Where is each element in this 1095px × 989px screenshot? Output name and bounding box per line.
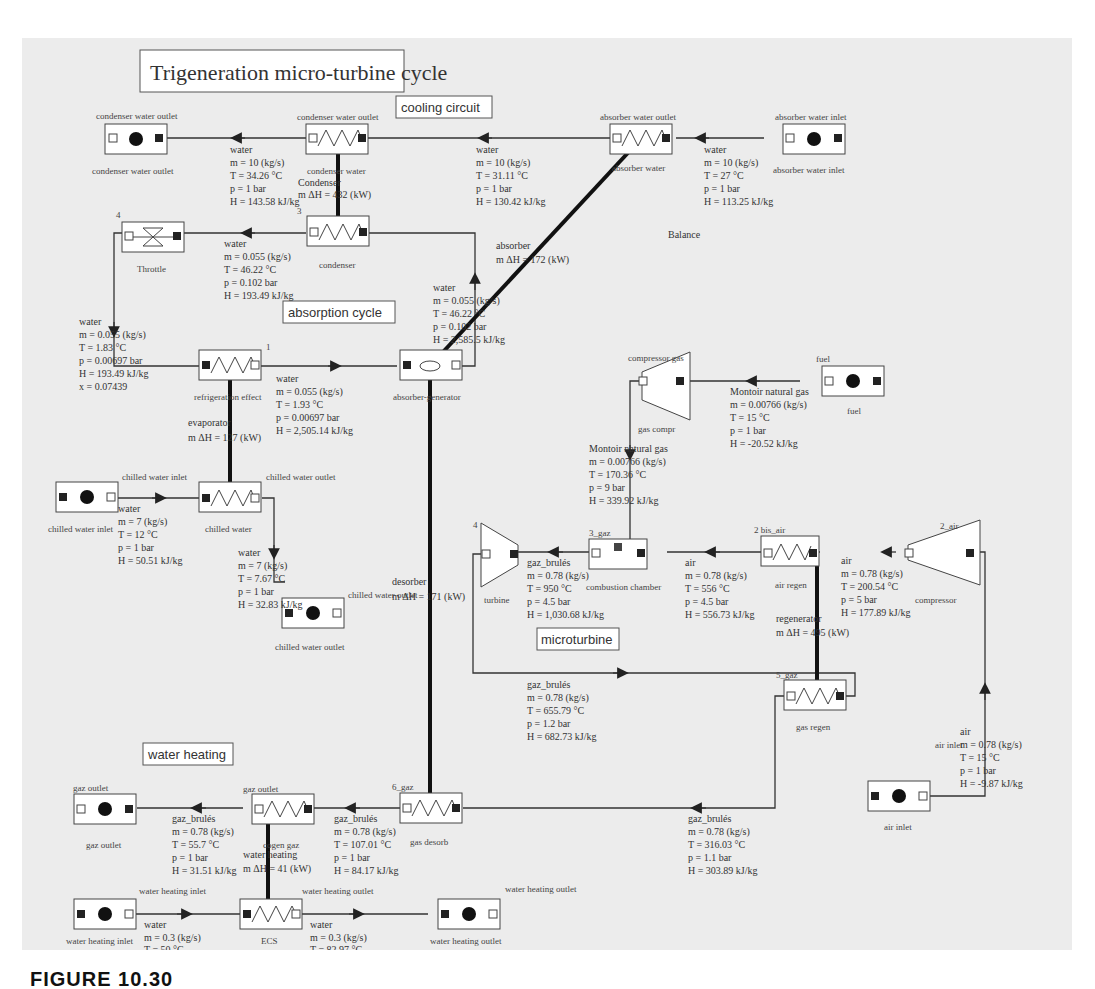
svg-text:m = 0.055 (kg/s): m = 0.055 (kg/s) xyxy=(276,386,343,398)
gas-outlet-sink[interactable] xyxy=(74,794,136,824)
svg-text:absorption cycle: absorption cycle xyxy=(288,305,382,320)
component-label: water heating outlet xyxy=(430,936,502,946)
svg-text:gaz_brulés: gaz_brulés xyxy=(334,813,377,824)
svg-text:x = 0.07439: x = 0.07439 xyxy=(79,381,127,392)
component-label: air inlet xyxy=(884,822,912,832)
svg-text:H = 113.25 kJ/kg: H = 113.25 kJ/kg xyxy=(704,196,773,207)
component-label: condenser water xyxy=(307,166,366,176)
svg-text:p = 0.102 bar: p = 0.102 bar xyxy=(433,321,487,332)
stream-gas-outlet: gaz_brulés m = 0.78 (kg/s) T = 55.7 °C p… xyxy=(172,813,237,876)
svg-text:p = 1 bar: p = 1 bar xyxy=(730,425,767,436)
air-inlet-source[interactable] xyxy=(868,781,930,811)
svg-text:Trigeneration micro-turbine cy: Trigeneration micro-turbine cycle xyxy=(150,60,447,85)
svg-text:water heating: water heating xyxy=(147,747,226,762)
svg-text:p = 1.2 bar: p = 1.2 bar xyxy=(527,718,571,729)
svg-text:gaz_brulés: gaz_brulés xyxy=(527,679,570,690)
svg-text:H = 556.73 kJ/kg: H = 556.73 kJ/kg xyxy=(685,609,755,620)
svg-text:T = 15 °C: T = 15 °C xyxy=(730,412,770,423)
svg-text:p = 1 bar: p = 1 bar xyxy=(476,183,513,194)
component-label: water heating outlet xyxy=(302,886,374,896)
svg-text:m ΔH = 432 (kW): m ΔH = 432 (kW) xyxy=(298,189,371,201)
node-number: 4 xyxy=(473,520,478,530)
svg-text:water: water xyxy=(310,919,333,930)
node-number: 4 xyxy=(116,210,121,220)
condenser-water-outlet-sink[interactable] xyxy=(105,124,167,154)
svg-text:T = 34.26 °C: T = 34.26 °C xyxy=(230,170,283,181)
svg-text:H = 303.89 kJ/kg: H = 303.89 kJ/kg xyxy=(688,865,758,876)
refrigeration-effect-exchanger[interactable] xyxy=(199,350,261,380)
svg-text:m = 0.78 (kg/s): m = 0.78 (kg/s) xyxy=(527,570,589,582)
component-label: refrigeration effect xyxy=(194,392,262,402)
stream-absorber-water-inlet: water m = 10 (kg/s) T = 27 °C p = 1 bar … xyxy=(704,144,773,207)
svg-text:p = 4.5 bar: p = 4.5 bar xyxy=(685,596,729,607)
component-label: ECS xyxy=(261,936,278,946)
svg-text:p = 1.1 bar: p = 1.1 bar xyxy=(688,852,732,863)
svg-text:T = 1.83 °C: T = 1.83 °C xyxy=(79,342,127,353)
chilled-water-exchanger[interactable] xyxy=(199,482,261,512)
svg-text:air: air xyxy=(841,555,852,566)
component-label: chilled water inlet xyxy=(48,524,113,534)
component-label: gas regen xyxy=(796,722,831,732)
gas-desorber-exchanger[interactable] xyxy=(400,793,462,823)
svg-text:T = 27 °C: T = 27 °C xyxy=(704,170,744,181)
component-label: fuel xyxy=(847,406,861,416)
stream-condenser-outlet: water m = 0.055 (kg/s) T = 46.22 °C p = … xyxy=(224,238,294,301)
svg-text:m = 0.055 (kg/s): m = 0.055 (kg/s) xyxy=(224,251,291,263)
component-label: absorber-generator xyxy=(393,392,461,402)
absorber-generator[interactable] xyxy=(400,350,462,380)
svg-text:p = 1 bar: p = 1 bar xyxy=(172,852,209,863)
svg-text:desorber: desorber xyxy=(392,576,427,587)
component-label: gaz outlet xyxy=(86,840,122,850)
chilled-water-inlet-source[interactable] xyxy=(56,482,118,512)
component-label: 2_air xyxy=(940,521,959,531)
svg-text:H = -9.87 kJ/kg: H = -9.87 kJ/kg xyxy=(960,778,1023,789)
fuel-source[interactable] xyxy=(822,366,884,396)
ecs-exchanger[interactable] xyxy=(240,899,302,929)
svg-text:m = 10 (kg/s): m = 10 (kg/s) xyxy=(476,157,530,169)
cogeneration-gas-exchanger[interactable] xyxy=(252,794,314,824)
svg-text:H = 193.49 kJ/kg: H = 193.49 kJ/kg xyxy=(224,290,294,301)
svg-text:m ΔH = 172 (kW): m ΔH = 172 (kW) xyxy=(496,254,569,266)
svg-text:T = 107.01 °C: T = 107.01 °C xyxy=(334,839,392,850)
svg-text:T = 82.97 °C: T = 82.97 °C xyxy=(310,944,363,950)
svg-text:Montoir natural gas: Montoir natural gas xyxy=(730,386,809,397)
svg-text:H = 1,030.68 kJ/kg: H = 1,030.68 kJ/kg xyxy=(527,609,604,620)
condenser-exchanger[interactable] xyxy=(307,216,369,246)
svg-text:water heating: water heating xyxy=(243,849,297,860)
svg-text:m ΔH = 171 (kW): m ΔH = 171 (kW) xyxy=(392,591,465,603)
svg-text:H = 130.42 kJ/kg: H = 130.42 kJ/kg xyxy=(476,196,546,207)
gas-regenerator[interactable] xyxy=(784,680,846,710)
absorber-water-exchanger[interactable] xyxy=(610,124,672,154)
water-heating-outlet-sink[interactable] xyxy=(438,899,500,929)
component-label: compressor xyxy=(915,595,957,605)
svg-text:p = 1 bar: p = 1 bar xyxy=(230,183,267,194)
svg-text:T = 46.22 °C: T = 46.22 °C xyxy=(433,308,486,319)
svg-text:m ΔH = 127 (kW): m ΔH = 127 (kW) xyxy=(188,432,261,444)
svg-text:cooling circuit: cooling circuit xyxy=(401,100,480,115)
stream-evaporator-outlet: water m = 0.055 (kg/s) T = 1.93 °C p = 0… xyxy=(276,373,353,436)
svg-text:p = 9 bar: p = 9 bar xyxy=(589,482,626,493)
svg-text:T = 46.22 °C: T = 46.22 °C xyxy=(224,264,277,275)
absorber-water-inlet-source[interactable] xyxy=(783,124,845,154)
svg-text:H = 682.73 kJ/kg: H = 682.73 kJ/kg xyxy=(527,731,597,742)
throttle-valve[interactable] xyxy=(122,222,184,252)
svg-text:m = 0.055 (kg/s): m = 0.055 (kg/s) xyxy=(433,295,500,307)
combustion-chamber[interactable] xyxy=(589,539,647,569)
diagram-title: Trigeneration micro-turbine cycle xyxy=(140,50,447,92)
component-label: gas desorb xyxy=(410,837,449,847)
section-label-water-heating: water heating xyxy=(143,743,233,765)
svg-text:microturbine: microturbine xyxy=(541,632,613,647)
component-label: absorber water inlet xyxy=(773,165,845,175)
svg-text:m ΔH = 495 (kW): m ΔH = 495 (kW) xyxy=(776,627,849,639)
component-label: chilled water xyxy=(205,524,252,534)
turbine[interactable] xyxy=(481,523,518,587)
svg-text:H = 339.92 kJ/kg: H = 339.92 kJ/kg xyxy=(589,495,659,506)
balance-label: Balance xyxy=(668,229,701,240)
condenser-water-exchanger[interactable] xyxy=(306,124,368,154)
component-label: gaz outlet xyxy=(243,784,279,794)
stream-condenser-water-outlet: water m = 10 (kg/s) T = 34.26 °C p = 1 b… xyxy=(230,144,300,207)
water-heating-inlet-source[interactable] xyxy=(74,899,136,929)
svg-text:H = 2,585.5 kJ/kg: H = 2,585.5 kJ/kg xyxy=(433,334,505,345)
figure-caption: FIGURE 10.30 xyxy=(30,968,173,989)
air-regenerator[interactable] xyxy=(761,536,819,566)
